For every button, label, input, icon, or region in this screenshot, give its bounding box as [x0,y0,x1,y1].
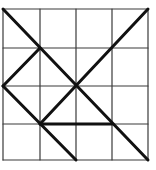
grid-diagram [0,0,156,170]
grid-diagram-canvas [0,0,156,170]
segment-short-upper-left [3,48,40,86]
